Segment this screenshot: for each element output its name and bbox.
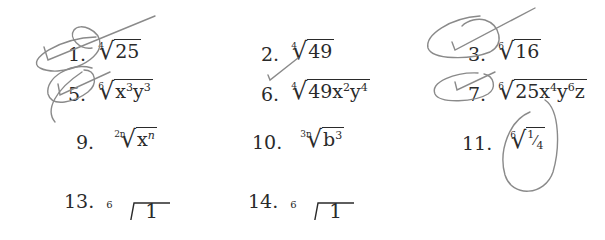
radicand: 1⁄4 (526, 127, 545, 152)
problem-3: 3. 6√16 (468, 36, 541, 65)
radical-index: 6 (510, 130, 516, 140)
radical-expression: 4√49x2y4 (291, 76, 370, 103)
variable: y (557, 80, 568, 102)
problem-14: 14. 6 1 x3 (248, 176, 351, 220)
radical-index: 4 (291, 41, 297, 51)
radicand: 49x2y4 (307, 79, 370, 103)
problem-9: 9. 2n√xn (76, 124, 157, 153)
variable: x (332, 80, 343, 102)
problem-number: 3. (468, 43, 486, 65)
radical-index: 6 (498, 81, 504, 91)
exponent: n (148, 129, 155, 142)
radicand: 25x4y6z (514, 79, 587, 103)
radicand: x3y3 (114, 79, 152, 103)
radical-index: 4 (98, 41, 104, 51)
radical-index: 3n (300, 129, 312, 139)
exponent: 3 (335, 129, 342, 142)
problem-number: 6. (261, 83, 279, 105)
problem-number: 14. (248, 190, 278, 212)
radical-index: 6 (498, 41, 504, 51)
problem-number: 13. (64, 190, 94, 212)
problem-2: 2. 4√49 (261, 36, 334, 65)
problem-13: 13. 6 1 c2 (64, 176, 167, 220)
variable: y (133, 80, 144, 102)
coefficient: 25 (515, 80, 539, 102)
radicand: 16 (514, 39, 541, 63)
variable: x (137, 128, 148, 150)
problem-10: 10. 3n√b3 (252, 124, 344, 153)
radical-expression: 6√16 (498, 36, 541, 63)
radical-expression: 3n√b3 (300, 124, 344, 151)
problem-6: 6. 4√49x2y4 (261, 76, 370, 105)
problem-number: 5. (68, 83, 86, 105)
problem-5: 5. 6√x3y3 (68, 76, 153, 105)
radicand: 49 (307, 39, 334, 63)
problem-number: 10. (252, 131, 282, 153)
problem-number: 1. (68, 43, 86, 65)
radical-expression: 2n√xn (114, 124, 157, 151)
exponent: 6 (568, 81, 575, 94)
radical-sign-icon (296, 197, 356, 220)
radical-expression: 6 1 x3 (290, 201, 350, 220)
fraction-denominator: 4 (536, 139, 543, 152)
problem-number: 7. (468, 83, 486, 105)
variable: x (115, 80, 126, 102)
radical-expression: 6√1⁄4 (510, 124, 545, 152)
radical-expression: 6√25x4y6z (498, 76, 587, 103)
exponent: 4 (361, 81, 368, 94)
coefficient: 49 (308, 80, 332, 102)
radicand: b3 (322, 127, 344, 151)
radicand: xn (136, 127, 157, 151)
variable: z (575, 80, 585, 102)
problem-number: 2. (261, 43, 279, 65)
radical-index: 2n (114, 129, 126, 139)
variable: x (539, 80, 550, 102)
problem-7: 7. 6√25x4y6z (468, 76, 587, 105)
variable: b (323, 128, 335, 150)
problem-number: 9. (76, 131, 94, 153)
radicand: 25 (114, 39, 141, 63)
radical-index: 6 (98, 81, 104, 91)
problem-1: 1. 4√25 (68, 36, 141, 65)
fraction-numerator: 1 (527, 128, 534, 141)
radical-expression: 6 1 c2 (106, 201, 166, 220)
radical-index: 4 (291, 81, 297, 91)
variable: y (350, 80, 361, 102)
exponent: 3 (144, 81, 151, 94)
radical-expression: 4√49 (291, 36, 334, 63)
problem-number: 11. (462, 132, 492, 154)
radical-sign-icon (112, 197, 172, 220)
exponent: 3 (126, 81, 133, 94)
problem-11: 11. 6√1⁄4 (462, 124, 545, 154)
radical-expression: 6√x3y3 (98, 76, 152, 103)
radical-expression: 4√25 (98, 36, 141, 63)
